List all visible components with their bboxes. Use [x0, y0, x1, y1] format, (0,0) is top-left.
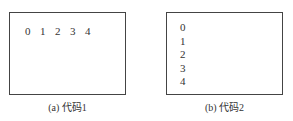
output-value: 1 [180, 35, 186, 49]
output-value: 3 [70, 25, 85, 37]
output-value: 3 [180, 62, 186, 76]
caption-b: (b) 代码2 [166, 99, 283, 114]
output-value: 4 [180, 75, 186, 89]
output-value: 2 [180, 48, 186, 62]
caption-a: (a) 代码1 [9, 99, 126, 114]
output-value: 0 [180, 21, 186, 35]
output-value: 2 [55, 25, 70, 37]
output-box-code2: 0 1 2 3 4 [166, 12, 283, 95]
output-value: 4 [85, 25, 100, 37]
output-value: 1 [40, 25, 55, 37]
horizontal-output: 01234 [25, 25, 100, 37]
output-box-code1: 01234 [9, 12, 126, 95]
vertical-output: 0 1 2 3 4 [180, 21, 186, 89]
output-value: 0 [25, 25, 40, 37]
